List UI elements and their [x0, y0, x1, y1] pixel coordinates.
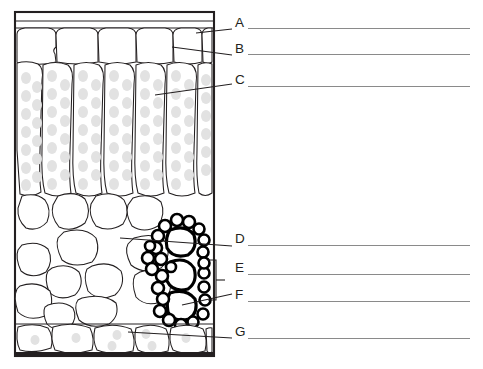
answer-line-f[interactable] — [248, 301, 470, 302]
lower-border-band — [15, 352, 214, 356]
layer-a-upper-cuticle — [16, 21, 213, 28]
answer-line-c[interactable] — [248, 86, 470, 87]
label-a: A — [235, 16, 244, 30]
label-c: C — [235, 73, 245, 87]
label-b: B — [235, 42, 244, 56]
layer-b-upper-epidermis — [17, 28, 212, 64]
layer-c-palisade-mesophyll — [17, 62, 212, 196]
answer-line-b[interactable] — [248, 54, 470, 55]
label-e: E — [235, 261, 244, 275]
answer-line-a[interactable] — [248, 28, 470, 29]
layer-g-lower-epidermis — [15, 324, 214, 356]
answer-line-g[interactable] — [248, 338, 470, 339]
answer-line-e[interactable] — [248, 274, 470, 275]
layer-ef-vascular-bundle — [142, 214, 211, 331]
label-g: G — [235, 325, 246, 339]
answer-line-d[interactable] — [248, 245, 470, 246]
worksheet-canvas: A B C D E F G — [0, 0, 483, 369]
e-f-bracket — [208, 260, 225, 300]
label-f: F — [235, 288, 243, 302]
label-d: D — [235, 232, 245, 246]
